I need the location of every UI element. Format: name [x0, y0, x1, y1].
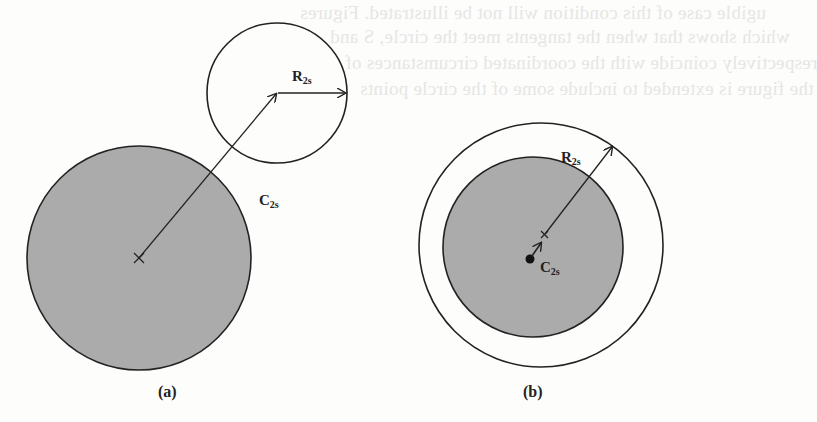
- shaded-circle: [443, 157, 623, 337]
- caption-b: (b): [523, 383, 543, 401]
- radius-label: R2s: [561, 149, 581, 167]
- center-dot: [526, 255, 535, 264]
- panel-b: R2s C2s (b): [419, 123, 663, 401]
- caption-a: (a): [158, 383, 177, 401]
- center-label: C2s: [259, 192, 279, 210]
- panel-a: R2s C2s (a): [27, 23, 347, 401]
- radius-label: R2s: [292, 68, 312, 86]
